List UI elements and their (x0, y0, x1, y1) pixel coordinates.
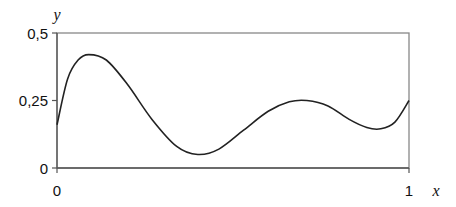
y-tick-label: 0,5 (27, 25, 48, 42)
data-curve (57, 55, 409, 155)
plot-frame (57, 33, 409, 168)
chart: 0,5 0,25 0 0 1 y x (0, 0, 456, 207)
x-axis-label: x (431, 182, 439, 199)
y-tick-label: 0,25 (19, 92, 48, 109)
x-tick-label: 1 (405, 182, 413, 199)
y-tick-label: 0 (40, 160, 48, 177)
x-tick-label: 0 (53, 182, 61, 199)
y-axis-label: y (51, 6, 61, 24)
